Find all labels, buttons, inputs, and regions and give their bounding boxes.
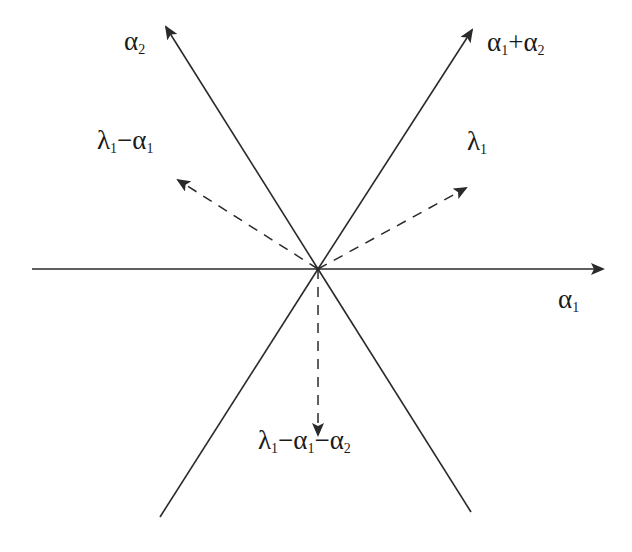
label-symbol: +α	[508, 27, 537, 57]
label-symbol: −α	[117, 125, 146, 155]
label-lambda1-minus-alpha1: λ1−α1	[97, 127, 153, 156]
root-neg-alpha1-plus-alpha2-line	[160, 269, 318, 517]
label-subscript: 2	[138, 42, 145, 57]
label-symbol: λ	[97, 125, 110, 155]
label-symbol: λ	[467, 126, 480, 156]
label-subscript: 1	[480, 142, 487, 157]
label-symbol: λ	[258, 425, 271, 455]
label-subscript: 2	[538, 43, 545, 58]
label-lambda1-minus-alpha1-minus-alpha2: λ1−α1−α2	[258, 427, 351, 456]
label-subscript: 2	[344, 441, 351, 456]
label-symbol: α	[487, 27, 501, 57]
label-symbol: α	[124, 26, 138, 56]
root-neg-alpha2-line	[318, 269, 471, 512]
dashed-weight-arrows	[178, 180, 466, 435]
origin-point	[316, 267, 320, 271]
label-subscript: 1	[146, 141, 153, 156]
label-symbol: −α	[278, 425, 307, 455]
label-symbol: −α	[314, 425, 343, 455]
root-alpha2-line	[166, 27, 318, 269]
label-symbol: α	[558, 284, 572, 314]
label-alpha1: α1	[558, 286, 579, 315]
root-alpha1-plus-alpha2-line	[318, 30, 472, 269]
weight-lambda1-minus-alpha1-arrow	[178, 180, 318, 269]
label-subscript: 1	[572, 300, 579, 315]
label-alpha2: α2	[124, 28, 145, 57]
root-system-diagram	[0, 0, 632, 552]
weight-lambda1-arrow	[318, 188, 466, 269]
label-lambda1: λ1	[467, 128, 487, 157]
label-alpha1-plus-alpha2: α1+α2	[487, 29, 545, 58]
